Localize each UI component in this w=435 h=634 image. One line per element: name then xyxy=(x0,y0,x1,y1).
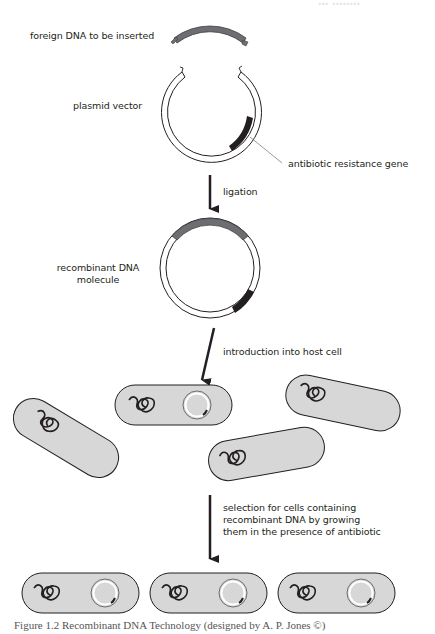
resistance-gene-label: antibiotic resistance gene xyxy=(288,158,408,170)
host-cell-without-plasmid xyxy=(282,371,404,434)
resistance-gene-pointer xyxy=(250,137,282,163)
introduction-label: introduction into host cell xyxy=(223,346,342,358)
introduction-arrow-icon xyxy=(202,328,214,380)
selection-label-line3: them in the presence of antibiotic xyxy=(223,526,381,538)
selected-cell-3 xyxy=(278,573,395,613)
ligation-label: ligation xyxy=(223,186,258,198)
host-cell-with-plasmid xyxy=(115,385,232,425)
host-cell-without-plasmid xyxy=(205,424,327,484)
recombinant-plasmid-icon xyxy=(160,218,260,318)
plasmid-vector-icon xyxy=(161,66,282,163)
host-cell-without-plasmid xyxy=(6,391,126,485)
selected-cell-2 xyxy=(150,573,267,613)
foreign-dna-label: foreign DNA to be inserted xyxy=(30,30,154,42)
figure-caption: Figure 1.2 Recombinant DNA Technology (d… xyxy=(14,619,325,631)
selection-label: selection for cells containing recombina… xyxy=(223,502,381,538)
recombinant-dna-label: recombinant DNA molecule xyxy=(48,262,148,286)
selection-label-line1: selection for cells containing xyxy=(223,502,381,514)
recombinant-dna-diagram xyxy=(0,0,435,634)
recombinant-label-line1: recombinant DNA xyxy=(48,262,148,274)
plasmid-vector-label: plasmid vector xyxy=(73,100,142,112)
recombinant-label-line2: molecule xyxy=(48,274,148,286)
selection-label-line2: recombinant DNA by growing xyxy=(223,514,381,526)
selected-cell-1 xyxy=(22,573,139,613)
foreign-dna-fragment-icon xyxy=(171,26,248,46)
